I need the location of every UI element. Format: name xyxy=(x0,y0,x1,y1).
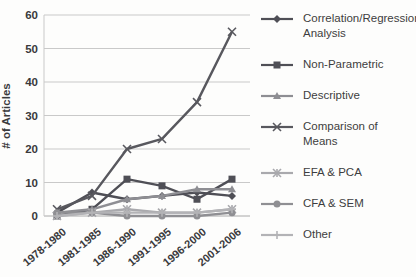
y-tick-label: 50 xyxy=(25,43,38,55)
plus-marker xyxy=(273,231,281,239)
legend-label: Correlation/Regression Analysis xyxy=(303,11,415,41)
square-marker xyxy=(274,61,281,68)
square-marker xyxy=(159,182,166,189)
triangle-marker-icon xyxy=(260,89,294,103)
circle-marker xyxy=(274,200,281,207)
y-tick-label: 10 xyxy=(25,177,38,189)
square-marker xyxy=(229,176,236,183)
y-axis-title: # of Articles xyxy=(0,83,12,148)
square-marker-icon xyxy=(260,58,294,72)
legend-label: Descriptive xyxy=(303,88,360,103)
legend: Correlation/Regression Analysis Non-Para… xyxy=(260,6,416,242)
legend-label: EFA & PCA xyxy=(303,165,362,180)
legend-item-correlation-regression: Correlation/Regression Analysis xyxy=(260,11,416,41)
x-marker xyxy=(228,28,236,36)
y-tick-label: 0 xyxy=(32,210,38,222)
legend-label: Comparison of Means xyxy=(303,119,415,149)
square-marker xyxy=(194,196,201,203)
plus-marker-icon xyxy=(260,228,294,242)
diamond-marker-icon xyxy=(260,12,294,26)
y-tick-label: 30 xyxy=(25,110,38,122)
y-tick-label: 20 xyxy=(25,143,38,155)
x-marker-icon xyxy=(260,120,294,134)
square-marker xyxy=(124,176,131,183)
y-tick-label: 40 xyxy=(25,76,38,88)
y-tick-label: 60 xyxy=(25,9,38,21)
legend-label: Non-Parametric xyxy=(303,57,384,72)
series-plus xyxy=(53,205,236,220)
legend-item-other: Other xyxy=(260,227,416,242)
asterisk-marker xyxy=(273,169,281,177)
legend-item-efa-pca: EFA & PCA xyxy=(260,165,416,180)
legend-item-comparison-of-means: Comparison of Means xyxy=(260,119,416,149)
circle-marker-icon xyxy=(260,197,294,211)
legend-label: CFA & SEM xyxy=(303,196,364,211)
x-marker xyxy=(193,98,201,106)
diamond-marker xyxy=(273,15,281,23)
series-x xyxy=(53,28,236,214)
legend-item-descriptive: Descriptive xyxy=(260,88,416,103)
legend-item-non-parametric: Non-Parametric xyxy=(260,57,416,72)
legend-item-cfa-sem: CFA & SEM xyxy=(260,196,416,211)
articles-by-method-line-chart: 0102030405060# of Articles1978-19801981-… xyxy=(0,0,416,277)
diamond-marker xyxy=(228,192,236,200)
asterisk-marker-icon xyxy=(260,166,294,180)
legend-label: Other xyxy=(303,227,332,242)
